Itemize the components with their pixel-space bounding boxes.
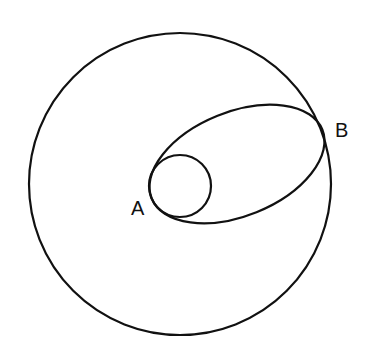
label-b: B — [335, 119, 348, 141]
label-a: A — [131, 197, 145, 219]
inner-circle — [149, 155, 211, 217]
outer-circle — [29, 33, 331, 335]
diagram-canvas: A B — [0, 0, 372, 359]
